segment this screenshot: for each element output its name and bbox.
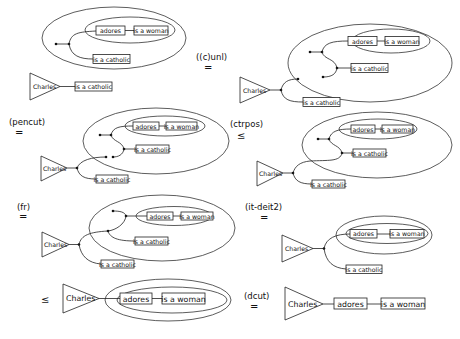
rule-label: (it-deit2) <box>245 202 282 212</box>
svg-text:is a catholic: is a catholic <box>99 261 136 268</box>
svg-text:is a catholic: is a catholic <box>93 56 130 63</box>
relation-symbol: = <box>204 62 212 73</box>
svg-text:adores: adores <box>353 230 374 237</box>
svg-text:Charles: Charles <box>33 83 56 90</box>
svg-text:Charles: Charles <box>288 300 317 309</box>
svg-text:is a woman: is a woman <box>133 27 168 34</box>
relation-symbol: ≤ <box>237 130 245 141</box>
svg-text:is a catholic: is a catholic <box>351 150 388 157</box>
svg-text:Charles: Charles <box>66 294 95 303</box>
svg-text:is a catholic: is a catholic <box>75 83 112 90</box>
svg-text:is a catholic: is a catholic <box>346 266 383 273</box>
outer-cut <box>83 108 229 174</box>
rule-label: (pencut) <box>9 117 45 127</box>
existential-graph-derivation: adores is a woman is a catholic Charles … <box>0 0 460 339</box>
svg-text:is a catholic: is a catholic <box>351 65 388 72</box>
svg-text:is a woman: is a woman <box>179 213 214 220</box>
outer-cut <box>89 195 235 261</box>
relation-symbol: ≤ <box>41 294 49 305</box>
outer-cut <box>288 24 452 102</box>
svg-text:is a catholic: is a catholic <box>310 181 347 188</box>
svg-text:is a catholic: is a catholic <box>303 99 340 106</box>
svg-text:Charles: Charles <box>259 170 282 177</box>
svg-text:is a woman: is a woman <box>384 38 419 45</box>
svg-text:Charles: Charles <box>44 241 67 248</box>
svg-text:is a woman: is a woman <box>380 126 415 133</box>
svg-text:Charles: Charles <box>243 87 266 94</box>
svg-text:is a catholic: is a catholic <box>94 176 131 183</box>
graph-step-2: adores is a woman is a catholic Charles … <box>240 24 452 107</box>
rule-label: ((c)unl) <box>196 52 227 62</box>
graph-step-7: Charles adores is a woman <box>63 279 231 321</box>
svg-text:adores: adores <box>150 213 171 220</box>
graph-step-3: adores is a woman is a catholic Charles … <box>41 108 229 183</box>
svg-text:is a woman: is a woman <box>381 300 425 309</box>
svg-text:is a catholic: is a catholic <box>133 238 170 245</box>
graph-step-5: adores is a woman is a catholic Charles … <box>42 195 235 268</box>
graph-step-1: adores is a woman is a catholic Charles … <box>30 7 186 100</box>
outer-cut <box>302 112 452 178</box>
svg-text:adores: adores <box>123 295 149 304</box>
svg-text:adores: adores <box>136 123 157 130</box>
rule-label: (dcut) <box>244 291 269 301</box>
relation-symbol: = <box>15 127 23 138</box>
svg-text:is a woman: is a woman <box>389 230 424 237</box>
graph-step-8: Charles adores is a woman <box>285 287 425 320</box>
rule-label: (ctrpos) <box>230 119 263 129</box>
svg-text:adores: adores <box>337 300 363 309</box>
svg-text:Charles: Charles <box>43 165 66 172</box>
svg-text:is a catholic: is a catholic <box>134 146 171 153</box>
svg-text:is a woman: is a woman <box>161 295 205 304</box>
adores-label: adores <box>100 27 121 34</box>
relation-symbol: = <box>250 301 258 312</box>
graph-step-6: Charles adores is a woman is a catholic <box>282 216 432 274</box>
svg-text:adores: adores <box>352 38 373 45</box>
graph-step-4: adores is a woman is a catholic Charles … <box>257 112 452 188</box>
relation-symbol: = <box>260 212 268 223</box>
svg-text:Charles: Charles <box>285 245 308 252</box>
relation-symbol: = <box>19 211 27 222</box>
svg-text:adores: adores <box>353 126 374 133</box>
svg-text:is a woman: is a woman <box>164 123 199 130</box>
